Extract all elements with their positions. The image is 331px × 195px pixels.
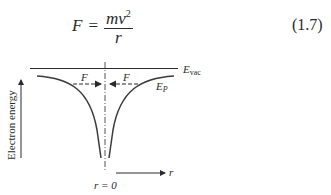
force-left-label: F bbox=[80, 71, 88, 83]
potential-label: EP bbox=[155, 80, 168, 94]
origin-label: r = 0 bbox=[94, 179, 117, 191]
energy-axis-label: Electron energy bbox=[5, 90, 17, 160]
vacuum-level-label: Evac bbox=[182, 63, 201, 77]
r-axis-label: r bbox=[169, 166, 174, 178]
force-right-label: F bbox=[122, 71, 130, 83]
potential-curve-left bbox=[37, 76, 101, 158]
potential-well-figure: F F Evac EP Electron energy r r = 0 bbox=[0, 0, 331, 195]
